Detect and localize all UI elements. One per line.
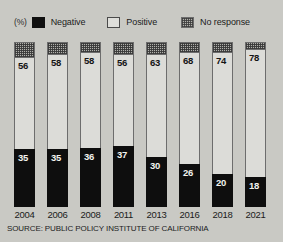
bar-value-positive: 58 bbox=[84, 56, 94, 66]
chart-figure: (%) Negative Positive No response 563558… bbox=[0, 0, 283, 242]
bar-segment-positive: 74 bbox=[212, 52, 233, 174]
bar-segment-negative: 37 bbox=[113, 146, 134, 207]
bar-segment-negative: 36 bbox=[80, 148, 101, 207]
bar-segment-positive: 63 bbox=[146, 54, 167, 158]
bar-value-negative: 37 bbox=[117, 150, 127, 160]
bar-value-positive: 74 bbox=[216, 56, 226, 66]
bar-value-positive: 56 bbox=[18, 61, 28, 71]
x-axis-tick-label: 2018 bbox=[206, 209, 239, 220]
bar-segment-positive: 58 bbox=[47, 54, 68, 150]
bar-value-negative: 20 bbox=[216, 178, 226, 188]
bar-segment-no-response bbox=[113, 42, 134, 54]
stacked-bar: 6330 bbox=[146, 42, 167, 207]
chart-legend: (%) Negative Positive No response bbox=[0, 12, 283, 32]
bar-value-positive: 58 bbox=[51, 58, 61, 68]
stacked-bar: 5835 bbox=[47, 42, 68, 207]
legend-label-no-response: No response bbox=[200, 17, 250, 27]
unit-label: (%) bbox=[14, 17, 27, 27]
x-axis-tick-label: 2006 bbox=[41, 209, 74, 220]
legend-label-negative: Negative bbox=[51, 17, 86, 27]
legend-item-no-response: No response bbox=[181, 17, 250, 28]
bar-value-negative: 36 bbox=[84, 152, 94, 162]
x-axis-tick-label: 2004 bbox=[8, 209, 41, 220]
x-axis-tick-label: 2013 bbox=[140, 209, 173, 220]
legend-label-positive: Positive bbox=[126, 17, 157, 27]
bar-value-positive: 78 bbox=[249, 53, 259, 63]
bar-value-negative: 35 bbox=[51, 153, 61, 163]
stacked-bar: 5637 bbox=[113, 42, 134, 207]
source-note: SOURCE: PUBLIC POLICY INSTITUTE OF CALIF… bbox=[7, 224, 209, 233]
bar-segment-negative: 35 bbox=[14, 149, 35, 207]
bar-value-positive: 63 bbox=[150, 58, 160, 68]
bar-value-positive: 68 bbox=[183, 56, 193, 66]
bar-segment-negative: 26 bbox=[179, 164, 200, 207]
bar-segment-no-response bbox=[179, 42, 200, 52]
bar-value-negative: 30 bbox=[150, 161, 160, 171]
stacked-bar: 6826 bbox=[179, 42, 200, 207]
bar-segment-positive: 58 bbox=[80, 52, 101, 148]
no-response-swatch-icon bbox=[181, 17, 194, 28]
legend-item-negative: Negative bbox=[32, 17, 86, 28]
stacked-bar: 7420 bbox=[212, 42, 233, 207]
bar-segment-no-response bbox=[47, 42, 68, 54]
bar-value-negative: 18 bbox=[249, 181, 259, 191]
negative-swatch-icon bbox=[32, 17, 45, 28]
bar-segment-positive: 56 bbox=[113, 54, 134, 146]
stacked-bar: 7818 bbox=[245, 42, 266, 207]
bar-segment-negative: 35 bbox=[47, 149, 68, 207]
stacked-bar: 5836 bbox=[80, 42, 101, 207]
bar-segment-no-response bbox=[80, 42, 101, 52]
bar-segment-negative: 20 bbox=[212, 174, 233, 207]
bar-segment-no-response bbox=[146, 42, 167, 54]
bar-segment-no-response bbox=[245, 42, 266, 49]
x-axis: 20042006200820112013201620182021 bbox=[0, 209, 283, 223]
bar-segment-no-response bbox=[212, 42, 233, 52]
bar-value-negative: 35 bbox=[18, 153, 28, 163]
x-axis-tick-label: 2011 bbox=[107, 209, 140, 220]
bar-value-positive: 56 bbox=[117, 58, 127, 68]
x-axis-tick-label: 2016 bbox=[173, 209, 206, 220]
legend-item-positive: Positive bbox=[107, 17, 157, 28]
bar-segment-positive: 68 bbox=[179, 52, 200, 164]
bar-segment-positive: 56 bbox=[14, 57, 35, 149]
bar-segment-negative: 18 bbox=[245, 177, 266, 207]
bar-segment-positive: 78 bbox=[245, 49, 266, 178]
bar-value-negative: 26 bbox=[183, 168, 193, 178]
bar-segment-no-response bbox=[14, 42, 35, 57]
positive-swatch-icon bbox=[107, 17, 120, 28]
plot-area: 56355835583656376330682674207818 bbox=[0, 42, 283, 207]
bar-segment-negative: 30 bbox=[146, 157, 167, 207]
stacked-bar: 5635 bbox=[14, 42, 35, 207]
x-axis-tick-label: 2008 bbox=[74, 209, 107, 220]
x-axis-tick-label: 2021 bbox=[239, 209, 272, 220]
